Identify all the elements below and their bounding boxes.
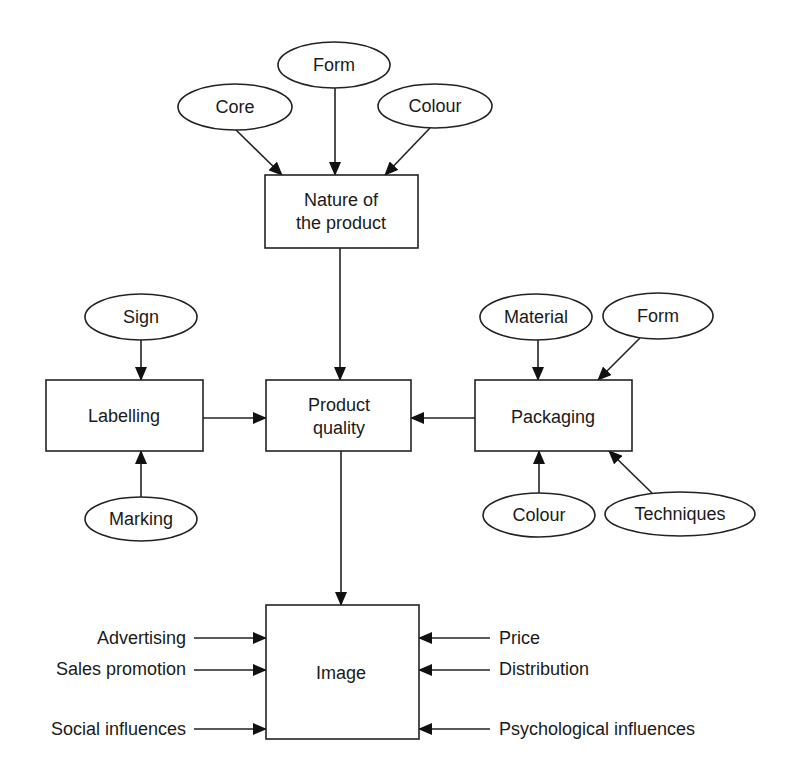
node-packaging-label: Packaging	[511, 406, 595, 428]
node-colour-top-label: Colour	[408, 95, 461, 117]
input-advertising-label: Advertising	[97, 627, 186, 649]
node-colour-pkg-label: Colour	[512, 504, 565, 526]
input-distribution-label: Distribution	[499, 658, 589, 680]
input-psychological-influences-label: Psychological influences	[499, 718, 695, 740]
edge-form-to-packaging	[598, 338, 640, 380]
node-techniques-label: Techniques	[634, 503, 725, 525]
input-price-label: Price	[499, 627, 540, 649]
node-labelling-label: Labelling	[88, 405, 160, 427]
node-sign-label: Sign	[123, 306, 159, 328]
node-nature-label-line2: the product	[296, 212, 386, 234]
input-sales-promotion-label: Sales promotion	[56, 658, 186, 680]
node-image-label: Image	[316, 662, 366, 684]
node-nature-label-line1: Nature of	[304, 189, 378, 211]
node-form-pkg-label: Form	[637, 305, 679, 327]
node-material-label: Material	[504, 306, 568, 328]
node-quality-label-line1: Product	[308, 394, 370, 416]
edge-techniques-to-packaging	[609, 451, 652, 493]
input-social-influences-label: Social influences	[51, 718, 186, 740]
edge-core-to-nature	[236, 130, 282, 175]
node-core-label: Core	[215, 96, 254, 118]
node-marking-label: Marking	[109, 508, 173, 530]
edge-colour-to-nature	[385, 128, 430, 175]
node-quality-label-line2: quality	[313, 417, 365, 439]
node-form-top-label: Form	[313, 54, 355, 76]
